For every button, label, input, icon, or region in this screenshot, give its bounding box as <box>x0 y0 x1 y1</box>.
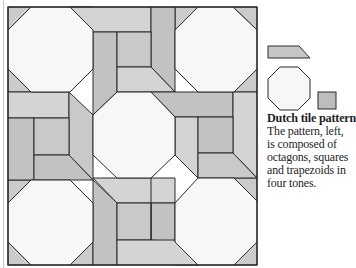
square-tile <box>34 118 69 155</box>
caption-line: four tones. <box>267 177 347 190</box>
legend-trapezoid <box>268 46 310 58</box>
square-tile <box>198 117 233 153</box>
legend-square <box>318 92 336 109</box>
trapezoid-bar <box>151 203 175 242</box>
trapezoid-bar <box>175 117 198 178</box>
octagon-tile <box>8 180 93 265</box>
figure-caption: Dutch tile pattern The pattern, left, is… <box>267 112 347 190</box>
square-tile <box>117 203 151 240</box>
shape-legend <box>0 0 344 120</box>
legend-octagon <box>268 67 310 110</box>
trapezoid-bar <box>8 118 34 180</box>
caption-body: The pattern, left, is composed of octago… <box>267 125 347 190</box>
octagon-tile <box>175 178 257 265</box>
